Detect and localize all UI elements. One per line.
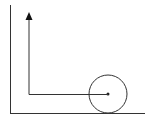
force-path-line (29, 18, 108, 95)
diagram-canvas (0, 0, 152, 121)
arrow-up-icon (26, 12, 33, 20)
